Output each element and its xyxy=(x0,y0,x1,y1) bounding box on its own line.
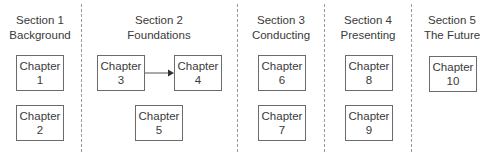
arrow-chapter-3-to-4 xyxy=(0,0,492,159)
